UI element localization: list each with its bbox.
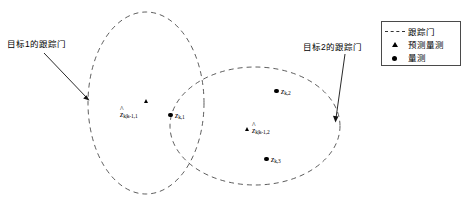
predicted-measurement-marker-target1: [144, 99, 148, 103]
hat-accent-pred-1: ^: [120, 106, 123, 114]
annotation-label-target1: 目标1的跟踪门: [7, 37, 66, 49]
point-label-meas-k2: zk,2: [281, 87, 291, 96]
measurement-marker-k2: [274, 89, 279, 94]
legend-item-measurement: 量测: [382, 51, 460, 65]
legend-key-dot: [382, 51, 408, 65]
point-label-sub-pred-1: k|k-1,1: [123, 113, 137, 119]
legend-key-dashed-line: [382, 25, 408, 39]
annotation-label-target2: 目标2的跟踪门: [303, 40, 362, 52]
point-label-sub-meas-k2: k,2: [284, 90, 291, 96]
point-label-pred-1: ^zk|k-1,1: [120, 110, 138, 119]
hat-accent-pred-2: ^: [252, 122, 255, 130]
point-label-sub-meas-k1: k,1: [178, 114, 185, 120]
leader-arrow-target2: [333, 54, 345, 123]
point-label-pred-2: ^zk|k-1,2: [252, 126, 270, 135]
point-label-sub-pred-2: k|k-1,2: [255, 129, 269, 135]
legend: 跟踪门 预测量测 量测: [381, 21, 461, 66]
predicted-measurement-marker-target2: [245, 127, 249, 131]
point-label-meas-k1: zk,1: [175, 111, 185, 120]
point-label-sub-meas-k3: k,3: [274, 158, 281, 164]
tracking-gate-figure: 目标1的跟踪门 目标2的跟踪门 ^zk|k-1,1 zk,1 zk,2 ^zk|…: [0, 0, 466, 203]
legend-key-triangle: [382, 38, 408, 52]
gate-ellipse-target1: [88, 12, 204, 194]
legend-item-gate: 跟踪门: [382, 25, 460, 39]
legend-label-gate: 跟踪门: [408, 28, 435, 37]
point-label-meas-k3: zk,3: [271, 155, 281, 164]
dashed-line-icon: [385, 31, 405, 32]
point-label-base-meas-k1: z: [175, 111, 178, 120]
point-label-base-meas-k2: z: [281, 87, 284, 96]
point-label-base-meas-k3: z: [271, 155, 274, 164]
triangle-marker-icon: [392, 42, 398, 47]
legend-item-predicted-measurement: 预测量测: [382, 38, 460, 52]
measurement-marker-k1: [168, 113, 173, 118]
dot-marker-icon: [392, 56, 397, 61]
legend-label-predicted-measurement: 预测量测: [408, 41, 444, 50]
measurement-marker-k3: [264, 157, 269, 162]
legend-label-measurement: 量测: [408, 54, 426, 63]
leader-arrow-target1: [44, 53, 90, 101]
